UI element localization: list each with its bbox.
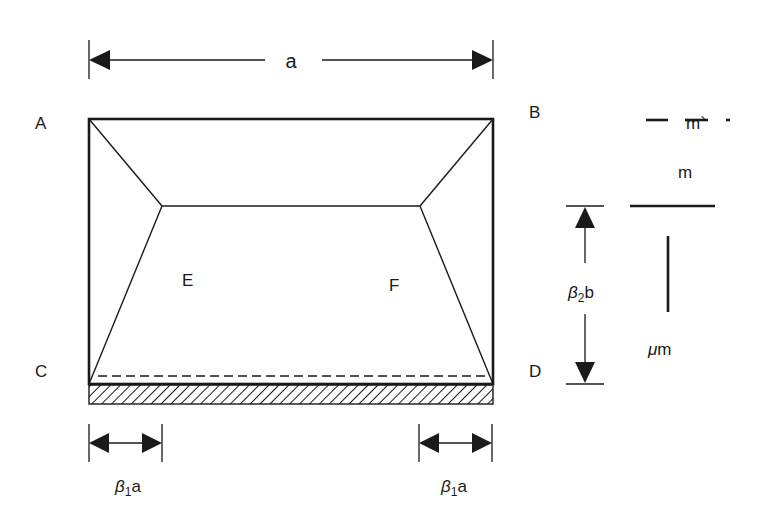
dimension-beta1-a-left: β1a [89,424,162,499]
dimension-beta2-b: β2b [566,206,604,384]
dimension-beta1-a-right-label: β1a [440,477,467,499]
legend-dashed-label: m` [686,114,706,133]
corner-label-c: C [35,362,47,381]
point-label-e: E [182,271,193,290]
yield-line-diagram: a A B C D E F β2b β1a [0,0,763,520]
fixed-edge-hatching [89,385,493,404]
arrow-left-icon [419,433,439,453]
dimension-a-label: a [285,50,297,72]
corner-label-b: B [529,103,540,122]
arrow-down-icon [575,362,595,383]
dimension-beta1-a-left-label: β1a [114,477,141,499]
dimension-beta1-a-right: β1a [419,424,492,499]
dimension-beta2-b-label: β2b [567,283,594,305]
arrow-right-icon [472,50,493,70]
arrow-left-icon [89,433,109,453]
legend-solid-label: m [678,163,692,182]
point-label-f: F [389,276,399,295]
slab-outline [89,119,493,384]
arrow-up-icon [575,207,595,228]
corner-label-a: A [35,114,47,133]
arrow-right-icon [142,433,162,453]
legend: m` m μm [630,114,730,359]
legend-vertical-label: μm [647,340,672,359]
arrow-right-icon [472,433,492,453]
corner-label-d: D [529,362,541,381]
arrow-left-icon [89,50,110,70]
dimension-a: a [89,40,493,79]
yield-lines [89,119,493,384]
